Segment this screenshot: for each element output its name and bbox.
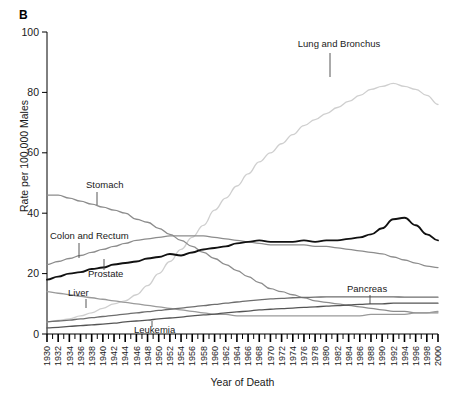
x-tick-label: 1986 [355, 346, 365, 366]
x-tick-label: 1978 [310, 346, 320, 366]
x-tick-label: 1930 [42, 346, 52, 366]
x-tick-label: 1964 [232, 346, 242, 366]
x-tick-label: 1948 [143, 346, 153, 366]
x-tick-label: 1944 [120, 346, 130, 366]
x-tick-label: 2000 [433, 346, 443, 366]
x-tick-label: 1958 [199, 346, 209, 366]
x-tick-label: 1950 [154, 346, 164, 366]
x-tick-label: 1962 [221, 346, 231, 366]
series-annotations: Lung and BronchusStomachColon and Rectum… [50, 38, 387, 335]
x-tick-label: 1988 [366, 346, 376, 366]
annotation-label-liver: Liver [68, 287, 89, 298]
x-tick-label: 1954 [176, 346, 186, 366]
chart-canvas: 020406080100 193019321934193619381940194… [0, 0, 453, 400]
x-tick-label: 1936 [76, 346, 86, 366]
x-tick-label: 1966 [243, 346, 253, 366]
x-tick-label: 1932 [53, 346, 63, 366]
x-tick-label: 1984 [344, 346, 354, 366]
y-tick-label: 0 [33, 328, 39, 340]
y-tick-label: 60 [27, 146, 39, 158]
annotation-label-colon-and-rectum: Colon and Rectum [50, 230, 129, 241]
x-tick-label: 1998 [422, 346, 432, 366]
x-tick-label: 1972 [277, 346, 287, 366]
annotation-label-prostate: Prostate [88, 268, 123, 279]
x-tick-label: 1996 [411, 346, 421, 366]
x-tick-label: 1942 [109, 346, 119, 366]
x-tick-label: 1960 [210, 346, 220, 366]
y-axis-ticks: 020406080100 [21, 26, 47, 340]
annotation-label-leukemia: Leukemia [134, 324, 176, 335]
annotation-label-lung-and-bronchus: Lung and Bronchus [298, 38, 381, 49]
x-tick-label: 1992 [389, 346, 399, 366]
annotation-label-stomach: Stomach [86, 179, 124, 190]
x-tick-label: 1974 [288, 346, 298, 366]
x-tick-label: 1952 [165, 346, 175, 366]
x-tick-label: 1982 [333, 346, 343, 366]
x-tick-label: 1940 [98, 346, 108, 366]
x-tick-label: 1990 [377, 346, 387, 366]
y-tick-label: 20 [27, 267, 39, 279]
y-tick-label: 80 [27, 86, 39, 98]
x-tick-label: 1938 [87, 346, 97, 366]
x-axis-ticks: 1930193219341936193819401942194419461948… [42, 334, 443, 366]
y-tick-label: 100 [21, 26, 39, 38]
x-tick-label: 1994 [400, 346, 410, 366]
x-tick-label: 1980 [321, 346, 331, 366]
x-tick-label: 1956 [187, 346, 197, 366]
x-tick-label: 1970 [266, 346, 276, 366]
y-tick-label: 40 [27, 207, 39, 219]
x-tick-label: 1976 [299, 346, 309, 366]
x-tick-label: 1946 [132, 346, 142, 366]
x-tick-label: 1968 [254, 346, 264, 366]
annotation-label-pancreas: Pancreas [347, 283, 387, 294]
figure-panel-b: B Rate per 100,000 Males Year of Death 0… [0, 0, 453, 400]
x-tick-label: 1934 [65, 346, 75, 366]
